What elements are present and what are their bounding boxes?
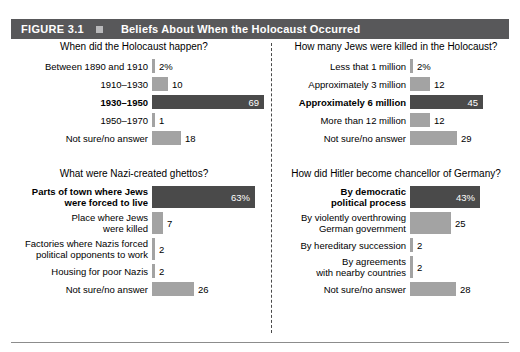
figure-number: FIGURE 3.1 xyxy=(21,23,84,35)
bottom-rule xyxy=(11,342,509,343)
bar-row: 1910–193010 xyxy=(6,77,268,91)
bar-category-label: Approximately 3 million xyxy=(276,79,410,90)
bar-value-label: 69 xyxy=(248,97,264,108)
bar-category-label: By democratic political process xyxy=(276,186,410,208)
bar-list: By democratic political process43%By vio… xyxy=(276,186,516,296)
figure-container: FIGURE 3.1 Beliefs About When the Holoca… xyxy=(0,0,520,352)
bar-track: 2% xyxy=(410,59,516,73)
bar-value-label: 26 xyxy=(194,284,209,295)
bar-category-label: Housing for poor Nazis xyxy=(6,266,152,277)
bar-category-label: More than 12 million xyxy=(276,115,410,126)
bar-category-label: By agreements with nearby countries xyxy=(276,256,410,278)
chart-title: What were Nazi-created ghettos? xyxy=(6,168,268,179)
chart-how-did-hitler-become-chancellor: How did Hitler become chancellor of Germ… xyxy=(276,168,516,300)
bar-row: Factories where Nazis forced political o… xyxy=(6,238,268,260)
figure-header-banner: FIGURE 3.1 Beliefs About When the Holoca… xyxy=(11,19,509,39)
bar-row: By hereditary succession2 xyxy=(276,238,516,252)
chart-what-were-nazi-created-ghettos: What were Nazi-created ghettos? Parts of… xyxy=(6,168,268,300)
bar-row: By violently overthrowing German governm… xyxy=(276,212,516,234)
bar-value-label: 63% xyxy=(231,192,255,203)
bar-category-label: Approximately 6 million xyxy=(276,97,410,108)
bar-value-label: 7 xyxy=(163,218,172,229)
bar-track: 43% xyxy=(410,186,516,208)
bar: 45 xyxy=(410,95,483,109)
figure-title: Beliefs About When the Holocaust Occurre… xyxy=(121,23,360,35)
bar-row: By democratic political process43% xyxy=(276,186,516,208)
bar-row: Approximately 6 million45 xyxy=(276,95,516,109)
square-marker-icon xyxy=(96,26,103,33)
bar-row: Not sure/no answer26 xyxy=(6,282,268,296)
bar-value-label: 18 xyxy=(181,133,196,144)
bar-row: 1930–195069 xyxy=(6,95,268,109)
bar-value-label: 2 xyxy=(413,262,422,273)
bar-category-label: 1950–1970 xyxy=(6,115,152,126)
bar-value-label: 45 xyxy=(467,97,483,108)
bar xyxy=(410,212,451,234)
bar: 69 xyxy=(152,95,264,109)
bar-row: Not sure/no answer18 xyxy=(6,131,268,145)
chart-how-many-jews-were-killed: How many Jews were killed in the Holocau… xyxy=(276,41,516,149)
bar-category-label: 1910–1930 xyxy=(6,79,152,90)
bar-track: 69 xyxy=(152,95,268,109)
chart-title: How did Hitler become chancellor of Germ… xyxy=(276,168,516,179)
bar-category-label: Not sure/no answer xyxy=(6,133,152,144)
bar xyxy=(410,131,457,145)
bar: 63% xyxy=(152,186,255,208)
bar-row: Not sure/no answer28 xyxy=(276,282,516,296)
bar-value-label: 2% xyxy=(155,61,173,72)
charts-area: When did the Holocaust happen? Between 1… xyxy=(0,41,520,339)
bar-list: Less that 1 million2%Approximately 3 mil… xyxy=(276,59,516,145)
bar-row: Not sure/no answer29 xyxy=(276,131,516,145)
bar-value-label: 43% xyxy=(456,192,480,203)
bar-category-label: Factories where Nazis forced political o… xyxy=(6,238,152,260)
bar-track: 2% xyxy=(152,59,268,73)
bar-category-label: By hereditary succession xyxy=(276,240,410,251)
bar-value-label: 10 xyxy=(168,79,183,90)
chart-title: When did the Holocaust happen? xyxy=(6,41,268,52)
bar-value-label: 25 xyxy=(451,218,466,229)
bar-track: 12 xyxy=(410,113,516,127)
bar-category-label: Less that 1 million xyxy=(276,61,410,72)
bar-track: 2 xyxy=(410,238,516,252)
bar-track: 26 xyxy=(152,282,268,296)
bar-track: 2 xyxy=(152,264,268,278)
bar-track: 1 xyxy=(152,113,268,127)
bar xyxy=(152,131,181,145)
bar-value-label: 2% xyxy=(413,61,431,72)
bar-value-label: 2 xyxy=(413,240,422,251)
bar-row: 1950–19701 xyxy=(6,113,268,127)
chart-when-did-the-holocaust-happen: When did the Holocaust happen? Between 1… xyxy=(6,41,268,149)
bar-row: Approximately 3 million12 xyxy=(276,77,516,91)
bar-category-label: Not sure/no answer xyxy=(276,133,410,144)
bar-category-label: Between 1890 and 1910 xyxy=(6,61,152,72)
bar-value-label: 29 xyxy=(457,133,472,144)
bar-track: 29 xyxy=(410,131,516,145)
bar-category-label: Not sure/no answer xyxy=(6,284,152,295)
bar xyxy=(410,77,430,91)
bar xyxy=(152,77,168,91)
bar xyxy=(152,212,163,234)
bar-category-label: Not sure/no answer xyxy=(276,284,410,295)
vertical-dashed-divider xyxy=(271,43,272,333)
bar-row: Between 1890 and 19102% xyxy=(6,59,268,73)
bar xyxy=(152,282,194,296)
bar-track: 2 xyxy=(410,256,516,278)
bar-value-label: 1 xyxy=(155,115,164,126)
bar-track: 63% xyxy=(152,186,268,208)
bar xyxy=(410,282,456,296)
bar-list: Parts of town where Jews were forced to … xyxy=(6,186,268,296)
bar-value-label: 12 xyxy=(430,79,445,90)
bar-track: 28 xyxy=(410,282,516,296)
bar-row: Housing for poor Nazis2 xyxy=(6,264,268,278)
bar-value-label: 2 xyxy=(155,266,164,277)
bar-list: Between 1890 and 19102%1910–1930101930–1… xyxy=(6,59,268,145)
bar-track: 7 xyxy=(152,212,268,234)
bar-row: By agreements with nearby countries2 xyxy=(276,256,516,278)
bar-track: 45 xyxy=(410,95,516,109)
bar-track: 25 xyxy=(410,212,516,234)
bar-row: More than 12 million12 xyxy=(276,113,516,127)
bar-row: Less that 1 million2% xyxy=(276,59,516,73)
bar-track: 18 xyxy=(152,131,268,145)
bar-value-label: 12 xyxy=(430,115,445,126)
bar-row: Place where Jews were killed7 xyxy=(6,212,268,234)
